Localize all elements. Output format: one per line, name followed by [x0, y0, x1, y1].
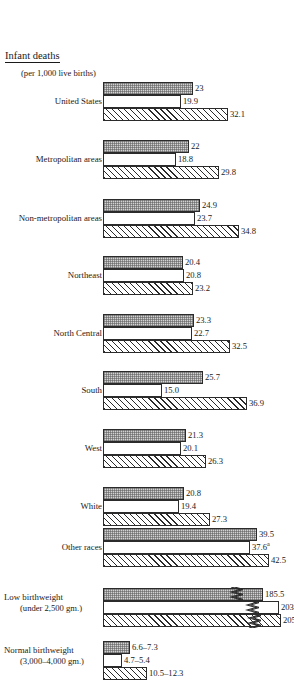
bar-all — [103, 140, 189, 153]
bar-value-text: 24.9 — [202, 200, 217, 210]
bar-value-label: 42.5 — [271, 554, 286, 567]
bar-value-text: 203.8 — [281, 602, 294, 612]
bar-all — [103, 528, 257, 541]
bar-value-text: 22 — [191, 141, 200, 151]
bar-value-text: 10.5–12.3 — [149, 668, 183, 678]
bar-group-label: Metropolitan areas — [36, 154, 102, 165]
bar-all — [103, 371, 203, 384]
bar-group: South25.715.036.9 — [0, 371, 294, 412]
bar-group-label-main: Low birthweight — [4, 592, 63, 602]
bar-value-text: 21.3 — [188, 430, 203, 440]
bar-group-label-main: Northeast — [68, 270, 102, 280]
bar-less — [103, 166, 219, 179]
bar-value-text: 42.5 — [271, 555, 286, 565]
bar-group-label-main: United States — [55, 96, 102, 106]
chart-title: Infant deaths — [5, 50, 60, 61]
bar-value-text: 23.7 — [197, 213, 212, 223]
bar-value-label: 21.3 — [188, 429, 203, 442]
bar-value-text: 20.1 — [183, 443, 198, 453]
bar-value-text: 18.8 — [178, 154, 193, 164]
bar-all — [103, 429, 186, 442]
bar-group-label: West — [85, 443, 102, 454]
bar-group-label-main: Normal birthweight — [4, 645, 74, 655]
footnote-marker: a — [267, 540, 270, 547]
chart-title-text: Infant deaths — [5, 50, 60, 63]
bar-value-label: 19.9 — [183, 95, 198, 108]
bar-less — [103, 455, 206, 468]
bar-value-label: 20.4 — [185, 256, 200, 269]
bar-value-text: 6.6–7.3 — [132, 642, 158, 652]
bar-all — [103, 641, 130, 654]
bar-over — [103, 500, 179, 513]
bar-value-text: 205.1 — [283, 615, 294, 625]
bar-value-text: 25.7 — [205, 372, 220, 382]
bar-group: Metropolitan areas2218.829.8 — [0, 140, 294, 181]
bar-value-label: 20.1 — [183, 442, 198, 455]
bar-over — [103, 654, 122, 667]
bar-value-label: 22.7 — [194, 327, 209, 340]
bar-group-label: Northeast — [68, 270, 102, 281]
bar-value-label: 29.8 — [221, 166, 236, 179]
bar-group-label-main: Non-metropolitan areas — [19, 213, 102, 223]
bar-value-text: 185.5 — [265, 589, 284, 599]
bar-value-label: 23 — [195, 82, 204, 95]
bar-value-label: 4.7–5.4 — [124, 654, 150, 667]
bar-value-text: 23 — [195, 83, 204, 93]
bar-value-text: 36.9 — [249, 398, 264, 408]
bar-value-text: 32.1 — [230, 109, 245, 119]
bar-group-label-sub: (3,000–4,000 gm.) — [4, 656, 84, 667]
bar-less — [103, 340, 230, 353]
bar-group: Other races39.537.6a42.5 — [0, 528, 294, 569]
bar-value-label: 27.3 — [212, 513, 227, 526]
bar-value-label: 23.3 — [196, 314, 211, 327]
bar-value-label: 205.1 — [283, 614, 294, 627]
bar-value-label: 32.1 — [230, 108, 245, 121]
bar-over — [103, 327, 192, 340]
bar-group-label-main: South — [81, 385, 102, 395]
bar-value-text: 23.2 — [195, 283, 210, 293]
bar-group: West21.320.126.3 — [0, 429, 294, 470]
bar-group-label: United States — [55, 96, 102, 107]
bar-group-label: Non-metropolitan areas — [19, 213, 102, 224]
bar-value-label: 6.6–7.3 — [132, 641, 158, 654]
infant-deaths-bar-chart: All income groups $10,000 and over Less … — [0, 0, 294, 683]
bar-over — [103, 153, 176, 166]
bar-over — [103, 212, 195, 225]
bar-value-label: 32.5 — [232, 340, 247, 353]
bar-value-text: 39.5 — [259, 529, 274, 539]
bar-less — [103, 397, 247, 410]
bar-value-label: 37.6a — [252, 541, 270, 554]
bar-value-text: 20.8 — [186, 270, 201, 280]
bar-less — [103, 513, 210, 526]
bar-over — [103, 442, 181, 455]
bar-value-text: 37.6 — [252, 542, 267, 552]
bar-less — [103, 614, 281, 627]
bar-all — [103, 256, 183, 269]
bar-over — [103, 384, 162, 397]
bar-less — [103, 108, 228, 121]
bar-over — [103, 269, 184, 282]
bar-value-text: 19.4 — [181, 501, 196, 511]
bar-group-label: Low birthweight(under 2,500 gm.) — [4, 592, 82, 614]
bar-value-label: 36.9 — [249, 397, 264, 410]
bar-value-label: 22 — [191, 140, 200, 153]
bar-value-label: 18.8 — [178, 153, 193, 166]
bar-less — [103, 667, 147, 680]
bar-value-label: 20.8 — [186, 269, 201, 282]
bar-group: North Central23.322.732.5 — [0, 314, 294, 355]
bar-value-label: 203.8a — [281, 601, 294, 614]
bar-value-label: 34.8 — [241, 225, 256, 238]
bar-group: United States2319.932.1 — [0, 82, 294, 123]
bar-group: White20.819.427.3 — [0, 487, 294, 528]
bar-group-label-main: White — [81, 501, 103, 511]
bar-value-label: 15.0 — [164, 384, 179, 397]
bar-all — [103, 199, 200, 212]
bar-value-label: 20.8 — [186, 487, 201, 500]
bar-group: Northeast20.420.823.2 — [0, 256, 294, 297]
bar-over — [103, 541, 250, 554]
bar-group-label-sub: (under 2,500 gm.) — [4, 603, 82, 614]
bar-value-text: 26.3 — [208, 456, 223, 466]
bar-value-label: 26.3 — [208, 455, 223, 468]
bar-value-text: 29.8 — [221, 167, 236, 177]
bar-value-label: 10.5–12.3 — [149, 667, 183, 680]
